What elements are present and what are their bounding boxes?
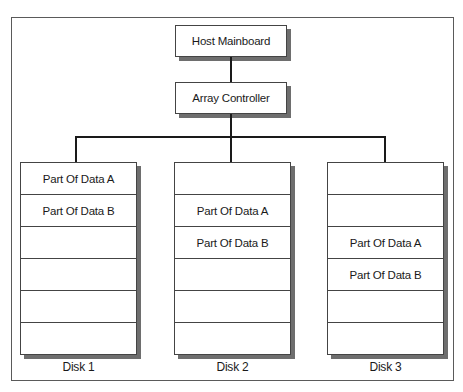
disk-1-label: Disk 1 <box>20 360 137 374</box>
disk-1-block-4 <box>21 259 136 291</box>
connector-disk-2 <box>230 136 232 162</box>
disk-1-block-1: Part Of Data A <box>21 163 136 195</box>
disk-2-block-6 <box>175 323 290 354</box>
array-controller-label: Array Controller <box>192 92 269 104</box>
disk-2-block-2: Part Of Data A <box>175 195 290 227</box>
disk-2: Part Of Data A Part Of Data B <box>174 162 291 355</box>
disk-1: Part Of Data A Part Of Data B <box>20 162 137 355</box>
disk-2-block-3: Part Of Data B <box>175 227 290 259</box>
disk-3-block-6 <box>328 323 443 354</box>
connector-disk-3 <box>384 136 386 162</box>
array-controller-box: Array Controller <box>175 82 287 114</box>
disk-2-block-1 <box>175 163 290 195</box>
host-mainboard-label: Host Mainboard <box>192 35 270 47</box>
disk-1-block-2: Part Of Data B <box>21 195 136 227</box>
disk-2-label: Disk 2 <box>174 360 291 374</box>
disk-1-block-3 <box>21 227 136 259</box>
disk-3-block-4: Part Of Data B <box>328 259 443 291</box>
disk-1-block-6 <box>21 323 136 354</box>
disk-3-block-1 <box>328 163 443 195</box>
disk-3-block-3: Part Of Data A <box>328 227 443 259</box>
disk-3-block-5 <box>328 291 443 323</box>
disk-3: Part Of Data A Part Of Data B <box>327 162 444 355</box>
disk-3-block-2 <box>328 195 443 227</box>
disk-2-block-5 <box>175 291 290 323</box>
connector-disk-1 <box>75 136 77 162</box>
disk-1-block-5 <box>21 291 136 323</box>
disk-2-block-4 <box>175 259 290 291</box>
connector-host-controller <box>230 57 232 82</box>
host-mainboard-box: Host Mainboard <box>175 25 287 57</box>
disk-3-label: Disk 3 <box>327 360 444 374</box>
connector-controller-bus <box>230 114 232 137</box>
